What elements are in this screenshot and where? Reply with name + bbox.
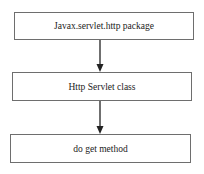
node-label: do get method <box>73 144 127 154</box>
node-label: Javax.servlet.http package <box>54 21 154 31</box>
arrow-package-to-class <box>97 40 104 72</box>
node-javax-servlet-http-package: Javax.servlet.http package <box>14 12 194 40</box>
node-do-get-method: do get method <box>10 134 191 163</box>
arrow-class-to-method <box>97 101 104 134</box>
node-label: Http Servlet class <box>68 82 135 92</box>
node-http-servlet-class: Http Servlet class <box>12 72 192 101</box>
